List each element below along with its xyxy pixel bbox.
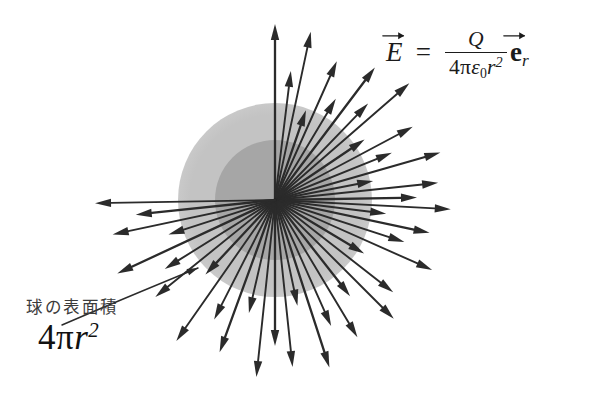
field-arrow-head bbox=[326, 61, 336, 77]
field-arrow-head bbox=[214, 303, 225, 319]
denom-r: r bbox=[487, 56, 496, 80]
sphere-surface-area-label: 球の表面積 bbox=[26, 294, 119, 318]
field-arrow-head bbox=[220, 336, 229, 352]
electric-field-equation: E = Q 4πε0r2 e r bbox=[386, 28, 529, 82]
field-arrow-head bbox=[370, 208, 386, 216]
field-arrow-head bbox=[176, 325, 189, 341]
field-arrow-head bbox=[165, 257, 181, 269]
field-arrow-head bbox=[168, 226, 185, 235]
field-arrow-head bbox=[388, 233, 405, 242]
field-arrow-head bbox=[117, 263, 133, 274]
field-arrow-head bbox=[113, 227, 130, 235]
charge-Q: Q bbox=[445, 28, 507, 52]
E-vector-symbol: E bbox=[386, 37, 403, 68]
field-arrow-head bbox=[248, 296, 256, 313]
field-arrow-head bbox=[303, 32, 311, 49]
field-arrow-head bbox=[422, 180, 438, 188]
field-arrow-head bbox=[324, 99, 336, 115]
caption-leader-head bbox=[187, 268, 198, 275]
denom-epsilon: ε bbox=[471, 56, 480, 80]
sphere-surface-area-formula: 4πr2 bbox=[38, 318, 99, 358]
field-arrow-head bbox=[413, 225, 430, 233]
field-arrow-head bbox=[397, 127, 413, 138]
denominator: 4πε0r2 bbox=[445, 52, 507, 82]
unit-vector-e-r: e bbox=[507, 37, 522, 68]
denom-four: 4 bbox=[449, 56, 460, 80]
E-glyph: E bbox=[386, 37, 403, 68]
denom-pi: π bbox=[460, 56, 471, 80]
field-arrow-head bbox=[287, 351, 295, 367]
caption-r: r bbox=[74, 318, 88, 357]
field-arrow-head bbox=[254, 361, 262, 377]
caption-four: 4 bbox=[38, 318, 56, 357]
field-arrow-head bbox=[320, 351, 329, 368]
field-arrow-head bbox=[321, 310, 331, 326]
denom-epsilon-subscript: 0 bbox=[480, 66, 487, 81]
field-arrow-head bbox=[375, 153, 391, 163]
field-arrow-head bbox=[271, 330, 279, 346]
field-fraction: Q 4πε0r2 bbox=[445, 28, 507, 82]
field-arrow-head bbox=[435, 204, 451, 212]
field-arrow-head bbox=[424, 153, 441, 161]
unit-vector-base: e bbox=[510, 37, 522, 68]
caption-exponent: 2 bbox=[88, 318, 99, 342]
field-arrow-head bbox=[346, 321, 358, 337]
equals-sign: = bbox=[410, 37, 438, 67]
field-arrow-head bbox=[416, 260, 432, 270]
field-arrow-head bbox=[401, 194, 417, 202]
field-arrow-head bbox=[95, 199, 111, 207]
field-arrow-head bbox=[271, 24, 279, 40]
diagram-canvas: E = Q 4πε0r2 e r 球の表面積 4πr2 bbox=[0, 0, 589, 396]
field-arrow-head bbox=[136, 209, 152, 217]
unit-vector-subscript: r bbox=[522, 51, 529, 70]
caption-pi: π bbox=[56, 318, 74, 357]
field-arrow-head bbox=[285, 71, 293, 87]
denom-r-exponent: 2 bbox=[496, 54, 503, 70]
field-arrow-head bbox=[290, 289, 298, 306]
